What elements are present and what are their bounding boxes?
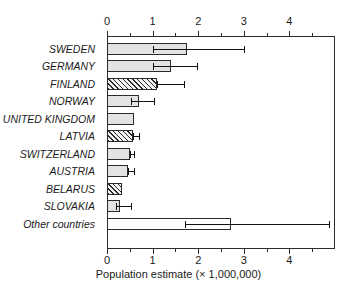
error-bar-cap-latvia-low (133, 133, 134, 140)
error-bar-cap-germany-low (153, 63, 154, 70)
bar-latvia (107, 130, 133, 142)
error-bar-cap-slovakia-high (131, 203, 132, 210)
error-bar-line-sweden (153, 49, 244, 50)
x-tick-top-3 (244, 31, 245, 37)
x-tick-label-top-0: 0 (96, 15, 118, 27)
error-bar-cap-switzerland-low (130, 151, 131, 158)
category-label-switzerland: SWITZERLAND (20, 148, 95, 160)
x-tick-label-bot-0: 0 (96, 254, 118, 266)
error-bar-cap-norway-low (131, 98, 132, 105)
category-label-slovakia: SLOVAKIA (44, 200, 95, 212)
error-bar-cap-other-countries-high (329, 221, 330, 228)
category-label-sweden: SWEDEN (49, 43, 95, 55)
error-bar-line-slovakia (116, 206, 131, 207)
category-label-other-countries: Other countries (23, 218, 95, 230)
x-minor-tick-bot (312, 248, 313, 252)
error-bar-cap-germany-high (197, 63, 198, 70)
bar-switzerland (107, 148, 130, 160)
category-label-austria: AUSTRIA (49, 165, 95, 177)
error-bar-cap-latvia-high (139, 133, 140, 140)
bar-finland (107, 78, 157, 90)
x-minor-tick-top (175, 33, 176, 37)
error-bar-cap-finland-low (157, 81, 158, 88)
x-tick-label-top-1: 1 (142, 15, 164, 27)
x-minor-tick-bot (130, 248, 131, 252)
error-bar-cap-slovakia-low (116, 203, 117, 210)
x-tick-label-bot-3: 3 (233, 254, 255, 266)
error-bar-line-finland (157, 84, 183, 85)
x-tick-label-top-3: 3 (233, 15, 255, 27)
x-minor-tick-top (312, 33, 313, 37)
error-bar-cap-sweden-low (153, 46, 154, 53)
error-bar-line-norway (131, 101, 154, 102)
bar-austria (107, 165, 128, 177)
x-minor-tick-top (221, 33, 222, 37)
error-bar-cap-sweden-high (244, 46, 245, 53)
error-bar-line-other-countries (185, 224, 329, 225)
x-tick-label-top-2: 2 (187, 15, 209, 27)
x-minor-tick-bot (221, 248, 222, 252)
category-label-finland: FINLAND (50, 78, 95, 90)
x-minor-tick-bot (175, 248, 176, 252)
x-tick-label-bot-4: 4 (278, 254, 300, 266)
x-tick-label-top-4: 4 (278, 15, 300, 27)
bar-united-kingdom (107, 113, 134, 125)
category-label-norway: NORWAY (49, 95, 95, 107)
x-tick-top-1 (153, 31, 154, 37)
x-tick-label-bot-1: 1 (142, 254, 164, 266)
error-bar-cap-other-countries-low (185, 221, 186, 228)
x-tick-top-2 (198, 31, 199, 37)
x-tick-top-0 (107, 31, 108, 37)
x-tick-top-4 (289, 31, 290, 37)
category-label-belarus: BELARUS (46, 183, 95, 195)
error-bar-cap-austria-low (128, 168, 129, 175)
error-bar-cap-finland-high (184, 81, 185, 88)
bar-belarus (107, 183, 122, 195)
x-tick-label-bot-2: 2 (187, 254, 209, 266)
error-bar-line-germany (153, 66, 198, 67)
x-minor-tick-bot (267, 248, 268, 252)
error-bar-cap-switzerland-high (134, 151, 135, 158)
category-label-united-kingdom: UNITED KINGDOM (3, 113, 95, 125)
x-minor-tick-top (267, 33, 268, 37)
x-minor-tick-top (130, 33, 131, 37)
error-bar-cap-norway-high (154, 98, 155, 105)
error-bar-cap-austria-high (134, 168, 135, 175)
x-axis-title: Population estimate (× 1,000,000) (0, 268, 357, 281)
category-label-germany: GERMANY (42, 60, 95, 72)
bar-chart-figure: 0011223344 SWEDENGERMANYFINLANDNORWAYUNI… (0, 0, 357, 288)
category-label-latvia: LATVIA (60, 130, 95, 142)
